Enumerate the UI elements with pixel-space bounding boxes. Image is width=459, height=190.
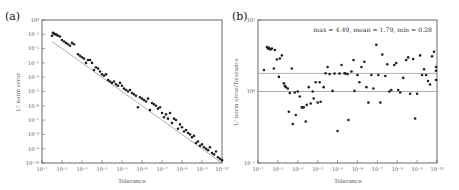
data-point (278, 76, 281, 79)
panel-b-y-axis-label: L² norm error/Tolerance (233, 58, 239, 126)
data-point (189, 133, 192, 136)
panel-b-horizontal-lines (258, 73, 437, 91)
panel-b: (b) 10¹10⁰10⁻¹ 10⁻¹10⁻²10⁻³10⁻⁴10⁻⁵10⁻⁶1… (232, 10, 444, 184)
data-point (91, 62, 94, 65)
data-point (197, 140, 200, 143)
x-tick-label: 10⁻⁵ (116, 166, 127, 172)
data-point (287, 87, 290, 90)
data-point (169, 112, 172, 115)
data-point (375, 44, 378, 47)
data-point (421, 74, 424, 77)
panel-a-scatter-points (51, 32, 224, 162)
panel-a: (a) 10⁰10⁻¹10⁻²10⁻³10⁻⁴10⁻⁵10⁻⁶10⁻⁷10⁻⁸1… (5, 10, 229, 184)
x-tick-label: 10⁻⁷ (156, 166, 167, 172)
data-point (121, 84, 124, 87)
data-point (412, 58, 415, 61)
y-tick-label: 10¹ (247, 17, 255, 23)
data-point (274, 49, 277, 52)
data-point (384, 75, 387, 78)
data-point (149, 109, 152, 112)
data-point (333, 72, 336, 75)
data-point (279, 57, 282, 60)
data-point (312, 97, 315, 100)
data-point (213, 153, 216, 156)
data-point (302, 106, 305, 109)
data-point (113, 80, 116, 83)
data-point (397, 89, 400, 92)
data-point (175, 119, 178, 122)
data-point (294, 114, 297, 117)
data-point (147, 97, 150, 100)
y-tick-label: 10⁰ (31, 17, 39, 23)
data-point (395, 62, 398, 65)
data-point (293, 91, 296, 94)
data-point (171, 122, 174, 125)
x-tick-label: 10⁻⁴ (96, 166, 107, 172)
data-point (390, 89, 393, 92)
data-point (326, 66, 329, 69)
data-point (386, 63, 389, 66)
data-point (291, 67, 294, 70)
data-point (309, 102, 312, 105)
y-tick-label: 10⁻² (28, 45, 39, 51)
data-point (296, 90, 299, 93)
data-point (129, 89, 132, 92)
data-point (221, 159, 224, 162)
data-point (93, 69, 96, 72)
data-point (379, 101, 382, 104)
y-tick-label: 10⁻⁶ (28, 103, 39, 109)
x-tick-label: 10⁻² (272, 166, 283, 172)
data-point (177, 127, 180, 130)
x-tick-label: 10⁻⁹ (412, 166, 423, 172)
panel-a-x-axis-label: Tolerance (118, 178, 145, 184)
data-point (181, 126, 184, 129)
data-point (427, 80, 430, 83)
data-point (319, 100, 322, 103)
panel-b-x-ticks: 10⁻¹10⁻²10⁻³10⁻⁴10⁻⁵10⁻⁶10⁻⁷10⁻⁸10⁻⁹10⁻¹… (252, 160, 443, 172)
data-point (85, 62, 88, 65)
data-point (393, 64, 396, 67)
data-point (414, 117, 417, 120)
panel-b-x-axis-label: Tolerance (334, 178, 361, 184)
x-tick-label: 10⁻³ (292, 166, 303, 172)
data-point (273, 67, 276, 70)
x-tick-label: 10⁻⁷ (372, 166, 383, 172)
data-point (331, 90, 334, 93)
y-tick-label: 10⁻⁴ (28, 74, 39, 80)
data-point (179, 123, 182, 126)
panel-a-y-axis-label: L² norm error (15, 72, 21, 111)
data-point (69, 44, 72, 47)
data-point (435, 66, 438, 69)
y-tick-label: 10⁻⁵ (28, 88, 39, 94)
data-point (311, 90, 314, 93)
x-tick-label: 10⁻⁵ (332, 166, 343, 172)
data-point (288, 111, 291, 114)
panel-b-scatter-points (263, 44, 438, 133)
data-point (289, 92, 292, 95)
x-tick-label: 10⁻¹⁰ (215, 166, 228, 172)
data-point (405, 59, 408, 62)
data-point (365, 86, 368, 89)
data-point (435, 79, 438, 82)
data-point (307, 86, 310, 89)
x-tick-label: 10⁻⁴ (312, 166, 323, 172)
data-point (305, 104, 308, 107)
data-point (336, 130, 339, 133)
data-point (201, 143, 204, 146)
data-point (89, 59, 92, 62)
data-point (145, 100, 148, 103)
y-tick-label: 10⁻³ (28, 60, 39, 66)
x-tick-label: 10⁻⁹ (196, 166, 207, 172)
x-tick-label: 10⁻⁸ (176, 166, 187, 172)
data-point (340, 64, 343, 67)
data-point (322, 86, 325, 89)
data-point (324, 72, 327, 75)
data-point (435, 69, 438, 72)
x-tick-label: 10⁻⁸ (392, 166, 403, 172)
data-point (350, 70, 353, 73)
panel-b-stats-annotation: max = 4.49, mean = 1.79, min = 0.28 (313, 26, 432, 33)
data-point (135, 94, 138, 97)
data-point (358, 81, 361, 84)
data-point (163, 116, 166, 119)
data-point (281, 54, 284, 57)
